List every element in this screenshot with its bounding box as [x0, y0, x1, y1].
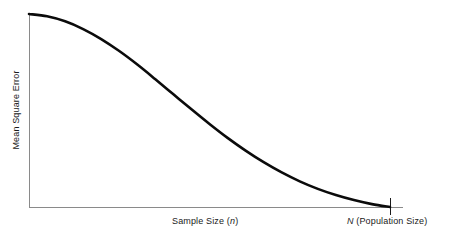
x-axis-symbol-N: N: [347, 216, 354, 226]
x-axis-label-sample-size: Sample Size (n): [172, 216, 238, 227]
mean-square-error-curve: [29, 14, 390, 207]
x-axis-label-population-suffix: (Population Size): [354, 216, 428, 226]
chart-plot-area: [0, 0, 453, 240]
y-axis-label-mean-square-error: Mean Square Error: [11, 57, 22, 163]
data-series-group: [29, 14, 390, 207]
axes-group: [29, 14, 403, 215]
x-axis-label-population-size: N (Population Size): [347, 216, 427, 227]
chart-figure: Sample Size (n) N (Population Size) Mean…: [0, 0, 453, 240]
x-axis-label-suffix: ): [235, 216, 238, 226]
x-axis-label-prefix: Sample Size (: [172, 216, 230, 226]
